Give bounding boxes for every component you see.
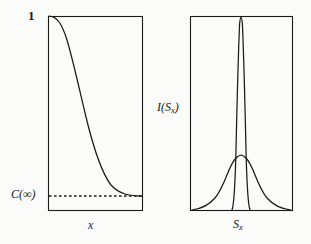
left-panel-ymax-label: 1 (28, 9, 35, 22)
bragg-peak-spike (232, 17, 250, 210)
right-panel-frame (191, 17, 293, 211)
diffuse-peak-curve (192, 155, 291, 210)
right-panel-y-axis-label: I(Sx) (157, 101, 179, 115)
right-y-axis-main-text: I(S (157, 100, 171, 114)
right-panel-x-axis-label: Sx (233, 218, 243, 232)
asymptote-value-label: C(∞) (11, 188, 36, 200)
left-panel-x-axis-label: x (88, 219, 93, 231)
figure-canvas (0, 0, 311, 244)
right-y-axis-close-paren: ) (175, 100, 179, 114)
figure-container: 1 C(∞) x I(Sx) Sx (0, 0, 311, 244)
right-x-axis-subscript: x (239, 222, 243, 232)
correlation-decay-curve (49, 16, 142, 196)
left-panel-frame (49, 17, 143, 211)
